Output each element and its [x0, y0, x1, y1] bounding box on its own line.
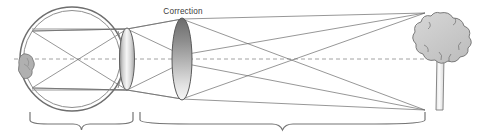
- tree-trunk: [436, 57, 444, 110]
- ray-diagram-figure: Correction: [0, 0, 486, 137]
- correction-label: Correction: [163, 7, 203, 16]
- figure-background: [0, 0, 486, 137]
- macula-blob: [18, 54, 34, 79]
- ray-diagram-canvas: Correction: [0, 0, 486, 137]
- correction-lens: [172, 18, 192, 100]
- crystalline-lens: [120, 28, 135, 90]
